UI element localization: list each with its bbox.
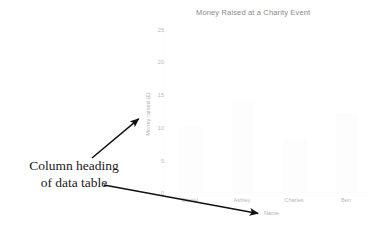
bar-ashley bbox=[231, 100, 255, 192]
x-tick-label: Charles bbox=[284, 197, 303, 203]
annotation-line-2: of data table bbox=[12, 174, 136, 191]
x-tick-label: Daniel bbox=[182, 197, 198, 203]
plot-area bbox=[164, 28, 370, 193]
chart-figure: Money Raised at a Charity Event 25 20 15… bbox=[0, 0, 374, 235]
y-tick-label: 5 bbox=[142, 158, 164, 164]
chart-title: Money Raised at a Charity Event bbox=[196, 8, 310, 17]
screenshot-root: Money Raised at a Charity Event 25 20 15… bbox=[0, 0, 374, 235]
y-axis-tick-labels: 25 20 15 10 5 0 bbox=[140, 0, 164, 235]
x-axis-label: Name bbox=[264, 210, 279, 216]
bar-ben bbox=[335, 113, 359, 192]
y-axis-label-text: Money raised (£) bbox=[145, 78, 151, 150]
annotation-label: Column heading of data table bbox=[12, 157, 136, 192]
bar-daniel bbox=[179, 126, 203, 192]
bar-charles bbox=[283, 139, 307, 192]
y-tick-label: 20 bbox=[142, 59, 164, 65]
x-tick-label: Ashley bbox=[234, 197, 251, 203]
annotation-line-1: Column heading bbox=[12, 157, 136, 174]
y-tick-label: 25 bbox=[142, 27, 164, 33]
y-axis-label: Money raised (£) bbox=[137, 6, 143, 78]
y-tick-label: 0 bbox=[142, 190, 164, 196]
x-tick-label: Ben bbox=[341, 197, 351, 203]
x-axis-tick-labels: Daniel Ashley Charles Ben bbox=[164, 197, 374, 209]
